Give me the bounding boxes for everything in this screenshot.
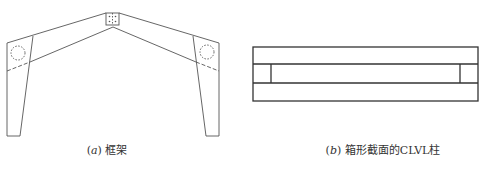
caption-b-letter: b	[330, 144, 337, 157]
right-column	[193, 36, 219, 136]
caption-b-text: 箱形截面的CLVL柱	[345, 144, 441, 157]
box-outline	[253, 47, 478, 101]
caption-a-letter: a	[91, 144, 98, 157]
right-knee-joint	[200, 45, 214, 59]
left-column	[7, 36, 33, 136]
left-rafter	[7, 13, 113, 71]
caption-frame: (a) 框架	[0, 143, 214, 159]
apex-connector	[106, 13, 119, 25]
right-rafter	[113, 13, 219, 71]
left-knee-joint	[11, 46, 25, 60]
box-section	[253, 47, 478, 101]
caption-a-text: 框架	[105, 144, 127, 157]
portal-frame	[7, 13, 219, 136]
caption-box-section: (b) 箱形截面的CLVL柱	[283, 143, 483, 159]
